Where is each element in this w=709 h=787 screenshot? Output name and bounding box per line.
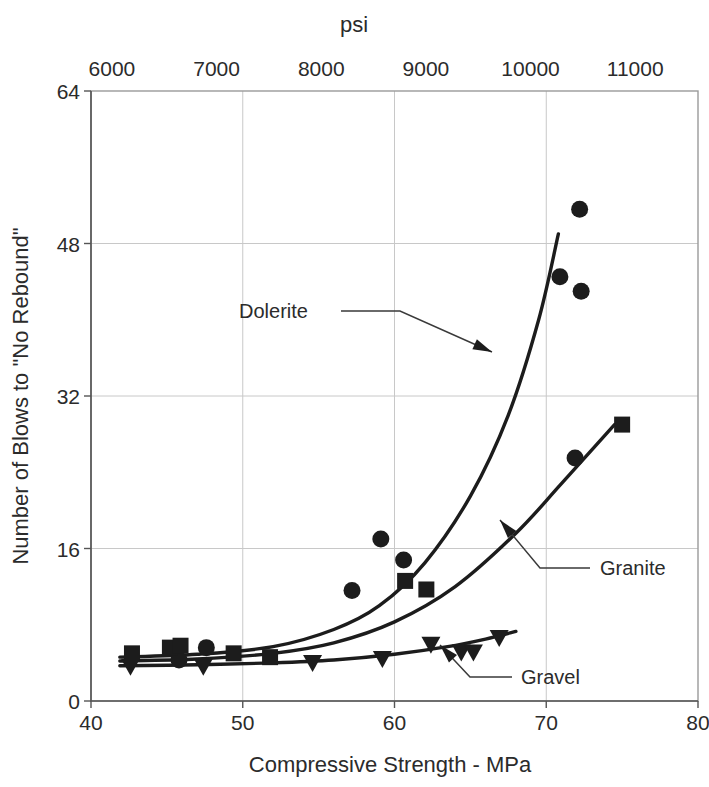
top-axis-title: psi bbox=[340, 12, 368, 37]
x-tick-label: 40 bbox=[79, 711, 102, 734]
marker-triangle-gravel bbox=[303, 655, 322, 672]
annotation-leader-dolerite bbox=[341, 311, 492, 352]
trend-curves bbox=[120, 234, 615, 666]
top-tick-label: 8000 bbox=[298, 57, 345, 80]
marker-circle-dolerite bbox=[344, 582, 361, 599]
marker-triangle-gravel bbox=[194, 659, 213, 676]
annotation-label-gravel: Gravel bbox=[521, 666, 580, 688]
marker-square-granite bbox=[397, 573, 413, 589]
top-tick-label: 11000 bbox=[607, 57, 664, 80]
gridlines bbox=[91, 91, 698, 701]
y-axis-title: Number of Blows to "No Rebound" bbox=[8, 227, 33, 564]
marker-triangle-gravel bbox=[464, 644, 483, 661]
axis-tickmarks bbox=[84, 91, 698, 708]
data-markers bbox=[121, 201, 630, 676]
x-axis-tick-labels: 4050607080 bbox=[79, 711, 709, 734]
marker-circle-dolerite bbox=[198, 639, 215, 656]
x-tick-label: 60 bbox=[383, 711, 406, 734]
top-tick-label: 7000 bbox=[193, 57, 240, 80]
annotation-arrow-dolerite bbox=[472, 339, 492, 352]
chart-svg: psi 60007000800090001000011000 405060708… bbox=[0, 0, 709, 787]
marker-circle-dolerite bbox=[567, 449, 584, 466]
y-tick-label: 16 bbox=[57, 538, 80, 561]
x-tick-label: 70 bbox=[535, 711, 558, 734]
marker-square-granite bbox=[418, 581, 434, 597]
marker-circle-dolerite bbox=[573, 283, 590, 300]
marker-circle-dolerite bbox=[571, 201, 588, 218]
annotation-leader-granite bbox=[500, 520, 590, 568]
x-tick-label: 50 bbox=[231, 711, 254, 734]
top-tick-label: 6000 bbox=[89, 57, 136, 80]
annotation-label-granite: Granite bbox=[600, 557, 666, 579]
trend-curve-dolerite bbox=[120, 234, 559, 657]
marker-square-granite bbox=[226, 645, 242, 661]
top-tick-label: 10000 bbox=[501, 57, 559, 80]
marker-circle-dolerite bbox=[551, 268, 568, 285]
y-tick-label: 32 bbox=[57, 385, 80, 408]
y-tick-label: 64 bbox=[57, 80, 81, 103]
annotation-label-dolerite: Dolerite bbox=[239, 300, 308, 322]
y-tick-label: 48 bbox=[57, 233, 80, 256]
y-axis-tick-labels: 016324864 bbox=[57, 80, 81, 713]
chart-figure: psi 60007000800090001000011000 405060708… bbox=[0, 0, 709, 787]
x-axis-title: Compressive Strength - MPa bbox=[249, 752, 532, 777]
marker-square-granite bbox=[262, 649, 278, 665]
marker-square-granite bbox=[173, 638, 189, 654]
x-tick-label: 80 bbox=[686, 711, 709, 734]
marker-circle-dolerite bbox=[372, 530, 389, 547]
y-tick-label: 0 bbox=[68, 690, 80, 713]
marker-square-granite bbox=[614, 417, 630, 433]
series-annotations: DoleriteGraniteGravel bbox=[239, 300, 666, 688]
top-tick-label: 9000 bbox=[403, 57, 450, 80]
trend-curve-granite bbox=[120, 425, 615, 661]
marker-triangle-gravel bbox=[373, 651, 392, 668]
marker-circle-dolerite bbox=[395, 551, 412, 568]
top-axis-tick-labels: 60007000800090001000011000 bbox=[89, 57, 664, 80]
